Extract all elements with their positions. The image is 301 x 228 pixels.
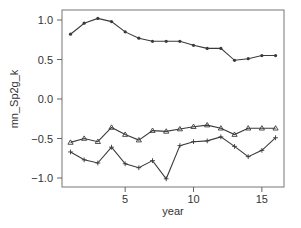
- dot-marker: [110, 20, 113, 23]
- dot-marker: [274, 54, 277, 57]
- dot-marker: [165, 40, 168, 43]
- series-dot: [69, 17, 277, 62]
- dot-marker: [247, 57, 250, 60]
- series-triangle: [68, 122, 278, 144]
- y-axis: 1.00.50.0−0.5−1.0: [31, 14, 62, 184]
- x-tick-label: 5: [122, 193, 128, 205]
- series-line: [71, 137, 276, 179]
- x-axis-label: year: [162, 205, 184, 217]
- plus-marker: [191, 139, 196, 144]
- plus-marker: [82, 157, 87, 162]
- plus-marker: [205, 138, 210, 143]
- dot-marker: [178, 40, 181, 43]
- dot-marker: [260, 54, 263, 57]
- dot-marker: [219, 47, 222, 50]
- series-line: [71, 18, 276, 60]
- dot-marker: [206, 47, 209, 50]
- x-tick-label: 10: [187, 193, 199, 205]
- dot-marker: [137, 37, 140, 40]
- y-tick-label: −1.0: [31, 172, 53, 184]
- dot-marker: [192, 44, 195, 47]
- x-tick-label: 15: [256, 193, 268, 205]
- y-tick-label: −0.5: [31, 133, 53, 145]
- plus-marker: [68, 150, 73, 155]
- y-tick-label: 1.0: [38, 14, 53, 26]
- dot-marker: [151, 40, 154, 43]
- y-axis-label: mn_Sp2g_k: [8, 69, 20, 128]
- plot-area-frame: [62, 10, 284, 187]
- series-line: [71, 125, 276, 142]
- line-chart: 1.00.50.0−0.5−1.0 51015 year mn_Sp2g_k: [0, 0, 301, 228]
- dot-marker: [83, 22, 86, 25]
- y-tick-label: 0.5: [38, 54, 53, 66]
- dot-marker: [69, 33, 72, 36]
- y-tick-label: 0.0: [38, 93, 53, 105]
- series-layer: [68, 17, 278, 181]
- dot-marker: [96, 17, 99, 20]
- dot-marker: [233, 59, 236, 62]
- plus-marker: [136, 165, 141, 170]
- dot-marker: [124, 30, 127, 33]
- x-axis: 51015: [122, 187, 268, 205]
- plus-marker: [177, 143, 182, 148]
